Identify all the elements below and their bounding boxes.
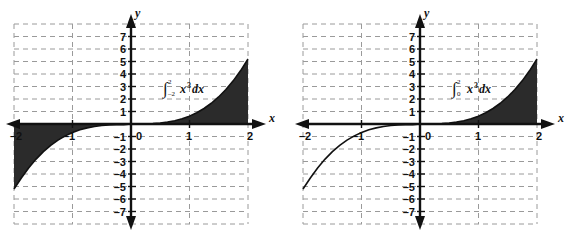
y-tick-label: 7 [409, 31, 415, 43]
x-tick-label: 1 [186, 130, 192, 142]
origin-label: 0 [425, 130, 431, 142]
x-tick-label: 2 [247, 130, 253, 142]
y-tick-labels-negative-right: –1 –2 –3 –4 –5 –6 –7 [403, 131, 416, 218]
y-tick-label: 3 [409, 81, 415, 93]
y-tick-labels-positive-right: 7 6 5 4 3 2 1 [409, 31, 416, 118]
y-tick-label: 2 [120, 93, 126, 105]
y-tick-label: 1 [120, 106, 126, 118]
y-tick-label: 4 [409, 68, 416, 80]
integral-upper-limit: 2 [168, 78, 172, 86]
integral-integrand: x [179, 82, 186, 96]
y-tick-label: 1 [409, 106, 415, 118]
y-axis-name-right: y [422, 6, 430, 20]
y-tick-labels-positive-left: 7 6 5 4 3 2 1 [120, 31, 127, 118]
integral-differential: dx [192, 82, 204, 96]
x-axis-name-left: x [268, 111, 275, 125]
y-tick-label: 7 [120, 31, 126, 43]
x-tick-label: –2 [10, 130, 22, 142]
y-tick-label: –4 [114, 168, 127, 180]
cubic-integral-figure: 7 6 5 4 3 2 1 –1 –2 –3 –4 –5 –6 –7 –2 [0, 0, 578, 231]
y-tick-label: 5 [120, 56, 126, 68]
y-tick-label: –2 [114, 143, 126, 155]
integral-lower-limit: –2 [167, 90, 176, 98]
x-tick-label: 1 [475, 130, 481, 142]
y-tick-label: 5 [409, 56, 415, 68]
figure-canvas: 7 6 5 4 3 2 1 –1 –2 –3 –4 –5 –6 –7 –2 [0, 0, 578, 231]
integral-integrand: x [466, 82, 473, 96]
x-tick-label: –1 [352, 130, 364, 142]
x-axis-name-right: x [557, 111, 564, 125]
y-tick-label: 3 [120, 81, 126, 93]
y-tick-label: –6 [114, 193, 126, 205]
x-tick-label: –2 [299, 130, 311, 142]
origin-label: 0 [136, 130, 142, 142]
y-tick-label: –6 [403, 193, 415, 205]
y-tick-label: –2 [403, 143, 415, 155]
y-tick-label: 6 [409, 43, 415, 55]
integral-power: 3 [187, 81, 191, 90]
integral-power: 3 [474, 81, 478, 90]
y-tick-label: –3 [114, 156, 126, 168]
y-tick-label: 4 [120, 68, 127, 80]
y-tick-label: –1 [114, 131, 126, 143]
y-tick-label: –3 [403, 156, 415, 168]
y-tick-label: 6 [120, 43, 126, 55]
y-tick-label: –5 [114, 181, 126, 193]
integral-lower-limit: 0 [457, 90, 461, 98]
x-tick-label: 2 [536, 130, 542, 142]
y-axis-name-left: y [133, 6, 141, 20]
y-tick-label: –7 [114, 206, 126, 218]
integral-upper-limit: 2 [457, 78, 461, 86]
x-tick-label: –1 [63, 130, 75, 142]
y-tick-label: –4 [403, 168, 416, 180]
integral-differential: dx [479, 82, 491, 96]
y-tick-label: –1 [403, 131, 415, 143]
y-tick-label: 2 [409, 93, 415, 105]
y-tick-label: –5 [403, 181, 415, 193]
y-tick-labels-negative-left: –1 –2 –3 –4 –5 –6 –7 [114, 131, 127, 218]
y-tick-label: –7 [403, 206, 415, 218]
